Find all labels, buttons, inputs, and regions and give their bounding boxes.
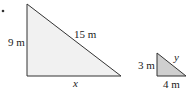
large-triangle-base-label: x xyxy=(72,77,78,89)
bullet-dot xyxy=(2,10,5,13)
large-triangle-hypotenuse-label: 15 m xyxy=(74,28,97,40)
small-triangle-shape xyxy=(157,53,186,76)
large-triangle: 9 m 15 m x xyxy=(8,4,121,89)
small-triangle-hypotenuse-label: y xyxy=(173,51,179,63)
small-triangle-vertical-label: 3 m xyxy=(138,59,155,71)
large-triangle-shape xyxy=(27,4,121,76)
small-triangle-base-label: 4 m xyxy=(163,78,180,89)
similar-triangles-diagram: 9 m 15 m x 3 m y 4 m xyxy=(0,0,186,89)
large-triangle-vertical-label: 9 m xyxy=(8,36,25,48)
small-triangle: 3 m y 4 m xyxy=(138,51,186,89)
